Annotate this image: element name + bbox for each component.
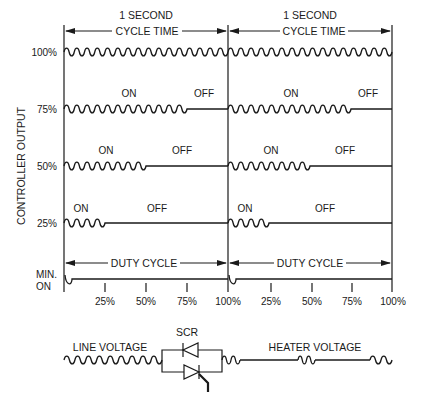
row-label-75: 75% xyxy=(37,104,57,115)
off-label-25-2: OFF xyxy=(315,203,335,214)
row-label-min: MIN. xyxy=(36,269,57,280)
waveform-50-cycle-2 xyxy=(228,162,392,170)
on-label-25-1: ON xyxy=(74,203,89,214)
waveform-100-cycle-2 xyxy=(228,48,392,56)
scr-thyristor-icon xyxy=(184,365,199,379)
row-label-100: 100% xyxy=(31,47,57,58)
tick-label-75-2: 75% xyxy=(342,296,362,307)
cycle-time-arrow-2: CYCLE TIME xyxy=(229,25,391,37)
off-label-25-1: OFF xyxy=(147,203,167,214)
duty-cycle-arrow-1: DUTY CYCLE xyxy=(65,257,227,269)
row-label-on: ON xyxy=(36,281,51,292)
tick-label-100-2: 100% xyxy=(380,296,406,307)
cycle-time-arrow-1: CYCLE TIME xyxy=(65,25,227,37)
on-label-50-2: ON xyxy=(264,145,279,156)
tick-label-25-1: 25% xyxy=(95,296,115,307)
waveform-75-cycle-2 xyxy=(228,105,392,113)
tick-label-25-2: 25% xyxy=(261,296,281,307)
diode-icon xyxy=(183,343,198,357)
duty-cycle-label-2: DUTY CYCLE xyxy=(277,257,343,269)
one-second-label-1: 1 SECOND xyxy=(119,9,173,21)
waveform-25-cycle-2 xyxy=(228,219,392,227)
waveform-100-cycle-1 xyxy=(64,48,228,56)
off-label-75-2: OFF xyxy=(358,88,378,99)
arrowhead-right-icon xyxy=(217,260,227,266)
arrowhead-left-icon xyxy=(65,28,75,34)
on-label-25-2: ON xyxy=(238,203,253,214)
line-voltage-label: LINE VOLTAGE xyxy=(73,341,147,353)
tick-label-75-1: 75% xyxy=(177,296,197,307)
duty-cycle-label-1: DUTY CYCLE xyxy=(111,257,177,269)
duty-cycle-arrow-2: DUTY CYCLE xyxy=(229,257,391,269)
on-label-75-2: ON xyxy=(284,88,299,99)
scr-gate-lead xyxy=(199,374,208,392)
waveform-min-cycle-1 xyxy=(65,275,228,284)
arrowhead-right-icon xyxy=(217,28,227,34)
arrowhead-right-icon xyxy=(381,260,391,266)
row-label-50: 50% xyxy=(37,161,57,172)
scr-label: SCR xyxy=(176,326,199,338)
scr-duty-cycle-diagram: 1 SECOND 1 SECOND CYCLE TIME CYCLE TIME … xyxy=(0,0,426,406)
waveform-50-cycle-1 xyxy=(64,162,228,170)
arrowhead-left-icon xyxy=(229,260,239,266)
off-label-50-2: OFF xyxy=(335,145,355,156)
tick-label-100-1: 100% xyxy=(215,296,241,307)
heater-voltage-label: HEATER VOLTAGE xyxy=(269,341,362,353)
cycle-time-label-2: CYCLE TIME xyxy=(283,25,346,37)
tick-label-50-2: 50% xyxy=(302,296,322,307)
cycle-time-label-1: CYCLE TIME xyxy=(116,25,179,37)
arrowhead-right-icon xyxy=(381,28,391,34)
scr-circuit: LINE VOLTAGE SCR HEATER VOLTAGE xyxy=(64,326,392,392)
one-second-label-2: 1 SECOND xyxy=(283,9,337,21)
waveform-75-cycle-1 xyxy=(64,105,228,113)
off-label-75-1: OFF xyxy=(194,88,214,99)
on-label-75-1: ON xyxy=(122,88,137,99)
tick-label-50-1: 50% xyxy=(136,296,156,307)
heater-voltage-wave-1 xyxy=(222,356,240,364)
arrowhead-left-icon xyxy=(65,260,75,266)
waveform-25-cycle-1 xyxy=(64,219,228,227)
off-label-50-1: OFF xyxy=(172,145,192,156)
row-label-25: 25% xyxy=(37,218,57,229)
line-voltage-wave xyxy=(64,356,162,364)
on-label-50-1: ON xyxy=(99,145,114,156)
y-axis-title: CONTROLLER OUTPUT xyxy=(15,106,27,224)
heater-voltage-wave-2 xyxy=(298,356,315,364)
arrowhead-left-icon xyxy=(229,28,239,34)
waveform-min-cycle-2 xyxy=(229,275,392,284)
heater-voltage-wave-3 xyxy=(370,356,392,364)
